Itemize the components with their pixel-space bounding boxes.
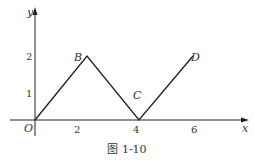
point-label-d: D [190,51,200,64]
y-axis-arrow-icon [33,7,38,15]
tick-x-2: 2 [74,124,80,135]
figure-chart: y x O 2 4 6 2 1 B C D [0,0,254,161]
point-label-b: B [73,51,82,64]
y-axis-label: y [26,6,34,19]
tick-y-2: 2 [26,51,32,62]
x-axis-label: x [242,122,249,135]
figure-caption: 图 1-10 [0,140,254,156]
tick-x-6: 6 [191,124,197,135]
origin-label: O [24,122,33,135]
tick-x-4: 4 [133,124,139,135]
data-line [35,56,193,120]
tick-y-1: 1 [26,88,32,99]
point-label-c: C [133,89,142,102]
